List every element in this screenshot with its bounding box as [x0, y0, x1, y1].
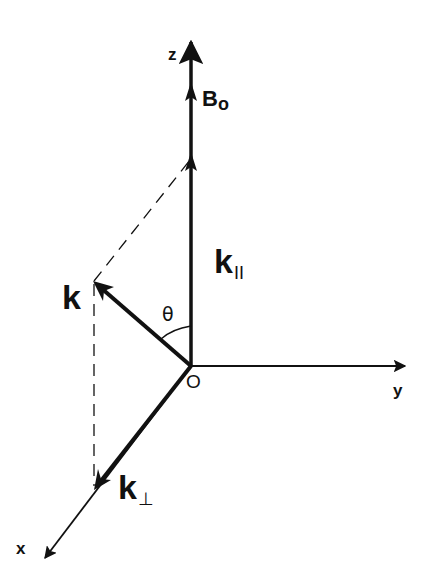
y-axis-label: y [393, 382, 402, 399]
origin-label: O [186, 372, 201, 391]
z-axis-label: z [168, 46, 177, 63]
k-vector [100, 287, 191, 366]
k-perp-label-main: k [118, 468, 137, 506]
k-parallel-label-main: k [214, 242, 233, 280]
b0-label-subscript: o [218, 94, 229, 114]
b0-label-main: B [202, 86, 218, 111]
k-label: k [62, 280, 81, 314]
k-perp-label: k⊥ [118, 470, 154, 508]
x-axis-label: x [16, 540, 25, 557]
k-parallel-label-subscript: II [234, 263, 244, 283]
k-perp-label-subscript: ⊥ [138, 489, 154, 509]
theta-label: θ [162, 305, 174, 324]
k-parallel-label: kII [214, 244, 244, 282]
b0-label: Bo [202, 88, 229, 113]
projection-dashed-parallel [94, 160, 190, 281]
theta-arc [161, 326, 191, 339]
k-perp-vector [97, 366, 191, 486]
